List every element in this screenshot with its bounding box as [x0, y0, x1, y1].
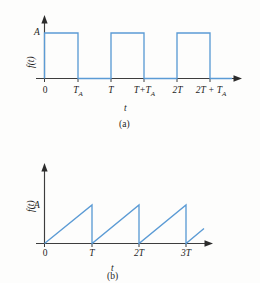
panel-b-caption: (b) [107, 272, 118, 282]
panel-a-xtick-ta-sub: A [79, 90, 83, 98]
panel-b-xtick-2t: 2T [131, 249, 147, 259]
panel-b-xtick-0: 0 [41, 249, 49, 259]
panel-a-waveform [45, 33, 233, 79]
panel-a-xtick-2t-plus-ta: 2T + TA [192, 86, 230, 98]
panel-a-plot [0, 0, 260, 140]
panel-b-xtick-3t: 3T [178, 249, 194, 259]
panel-a-amplitude-label: A [34, 28, 40, 38]
panel-a-xtick-2t-plus-ta-main: 2T + T [196, 85, 222, 95]
panel-b-xtick-2t-main: 2T [134, 248, 144, 258]
panel-b-waveform [45, 205, 205, 244]
panel-a-xtick-2t-main: 2T [172, 85, 182, 95]
panel-a-xtick-2t-plus-ta-sub: A [222, 90, 226, 98]
panel-a-xtick-t: T [106, 86, 116, 96]
panel-b-xtick-3t-main: 3T [181, 248, 191, 258]
panel-a-xtick-2t: 2T [170, 86, 185, 96]
panel-a-xtick-ta: TA [69, 86, 87, 98]
panel-b-sawtooth-wave: A f(t) 0 T 2T 3T t (b) [0, 140, 260, 283]
panel-b-plot [0, 140, 260, 283]
panel-a-caption: (a) [119, 120, 130, 130]
panel-b-xtick-t-main: T [89, 248, 94, 258]
panel-b-y-axis [41, 163, 47, 243]
panel-a-y-axis-label: f(t) [26, 56, 36, 68]
panel-b-xtick-t: T [87, 249, 97, 259]
panel-a-x-axis-label: t [124, 104, 127, 114]
panel-a-xtick-t-main: T [108, 85, 113, 95]
panel-a-xtick-0: 0 [41, 86, 49, 96]
panel-a-xtick-t-plus-ta-main: T+T [134, 85, 151, 95]
panel-a-xtick-0-main: 0 [43, 85, 48, 95]
panel-a-xtick-t-plus-ta-sub: A [151, 90, 155, 98]
panel-b-y-axis-label: f(t) [26, 200, 36, 212]
panel-b-xtick-0-main: 0 [43, 248, 48, 258]
panel-a-rectangular-pulse-train: A f(t) 0 TA T T+TA 2T 2T + TA t (a) [0, 0, 260, 140]
waveform-figure: A f(t) 0 TA T T+TA 2T 2T + TA t (a) [0, 0, 260, 283]
panel-a-xtick-t-plus-ta: T+TA [129, 86, 160, 98]
